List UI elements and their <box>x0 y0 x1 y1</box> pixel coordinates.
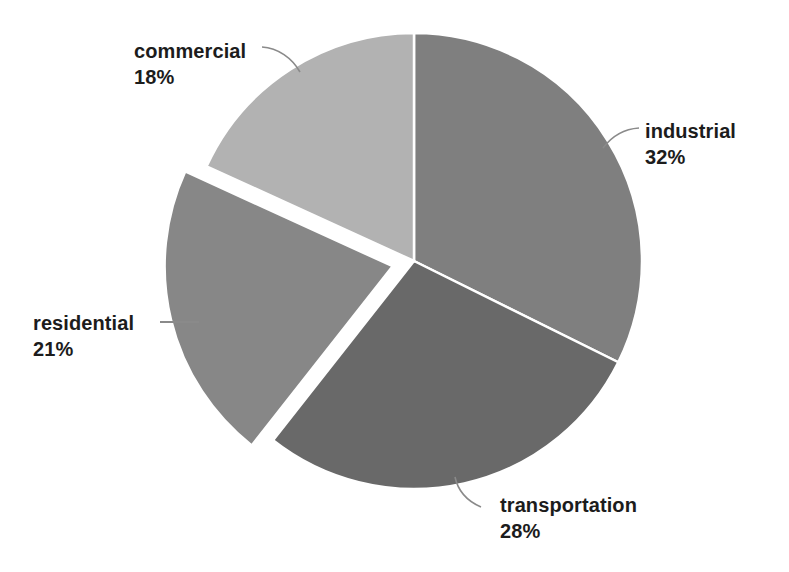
pie-label-transportation-value: 28% <box>500 518 637 544</box>
pie-chart-figure <box>0 0 789 572</box>
pie-label-commercial: commercial 18% <box>134 38 246 90</box>
pie-label-industrial-value: 32% <box>645 144 736 170</box>
pie-label-industrial: industrial 32% <box>645 118 736 170</box>
pie-label-transportation-name: transportation <box>500 492 637 518</box>
pie-label-transportation: transportation 28% <box>500 492 637 544</box>
pie-label-industrial-name: industrial <box>645 118 736 144</box>
pie-label-residential: residential 21% <box>33 310 134 362</box>
pie-label-residential-name: residential <box>33 310 134 336</box>
pie-label-commercial-name: commercial <box>134 38 246 64</box>
pie-chart-page: commercial 18% industrial 32% residentia… <box>0 0 789 572</box>
pie-label-commercial-value: 18% <box>134 64 246 90</box>
pie-label-residential-value: 21% <box>33 336 134 362</box>
